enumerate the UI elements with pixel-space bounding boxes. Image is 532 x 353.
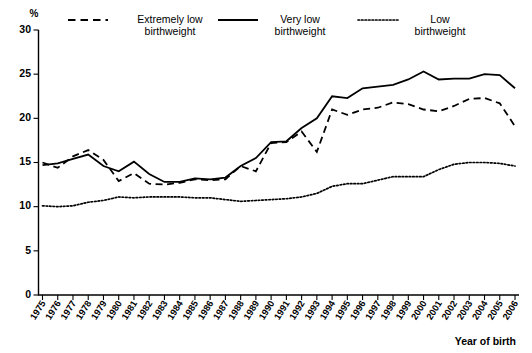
legend-label-very-low-birthweight-line2: birthweight xyxy=(275,25,326,37)
legend-label-low-birthweight-line1: Low xyxy=(430,13,450,25)
x-axis-ticks xyxy=(43,295,516,300)
y-tick-label: 30 xyxy=(19,23,31,35)
y-axis-ticks xyxy=(34,30,39,295)
chart-legend: Extremely low birthweight Very low birth… xyxy=(68,13,465,37)
y-tick-label: 5 xyxy=(25,244,31,256)
chart-axes xyxy=(39,30,520,295)
y-tick-label: 25 xyxy=(19,67,31,79)
chart-container: Extremely low birthweight Very low birth… xyxy=(0,0,532,353)
y-tick-label: 0 xyxy=(25,288,31,300)
y-axis-unit-label: % xyxy=(30,8,39,19)
legend-label-extremely-low-birthweight-line1: Extremely low xyxy=(137,13,203,25)
y-axis-tick-labels: 051015202530 xyxy=(19,23,31,300)
line-chart: Extremely low birthweight Very low birth… xyxy=(0,0,532,353)
x-axis-title: Year of birth xyxy=(455,335,516,347)
y-tick-label: 15 xyxy=(19,155,31,167)
x-tick-label: 2006 xyxy=(501,299,520,322)
x-axis-tick-labels: 1975197619771978197919801981198219831984… xyxy=(28,298,520,322)
legend-label-low-birthweight-line2: birthweight xyxy=(415,25,466,37)
legend-label-very-low-birthweight-line1: Very low xyxy=(280,13,320,25)
legend-label-extremely-low-birthweight-line2: birthweight xyxy=(145,25,196,37)
y-tick-label: 20 xyxy=(19,111,31,123)
series-line-very-low-birthweight xyxy=(43,72,516,182)
data-series-group xyxy=(43,72,516,207)
y-tick-label: 10 xyxy=(19,199,31,211)
